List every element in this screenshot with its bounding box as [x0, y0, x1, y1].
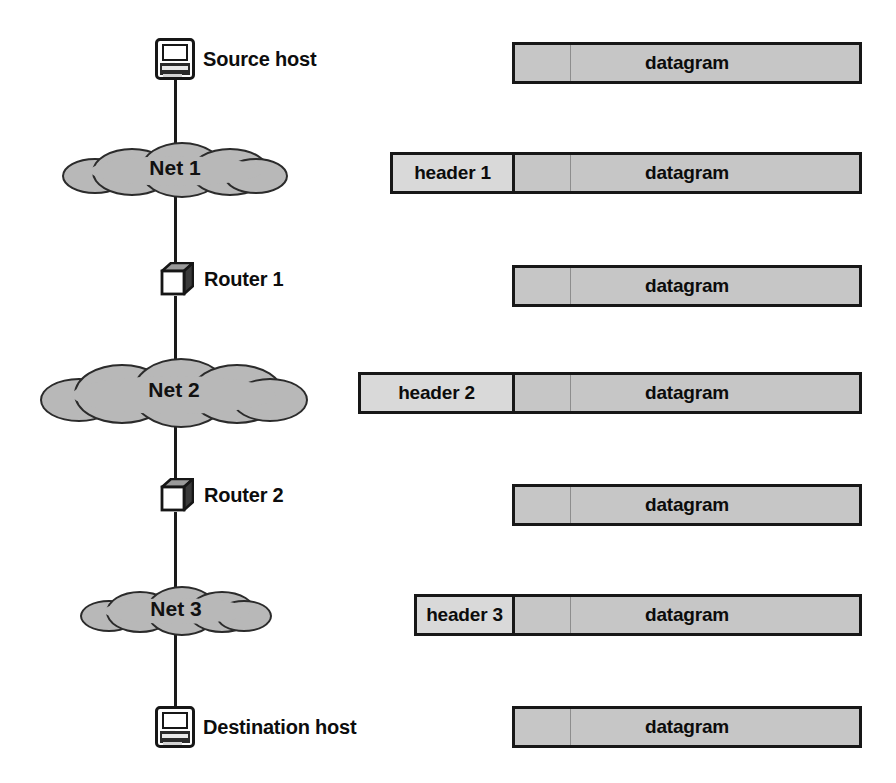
payload-label: datagram	[645, 275, 729, 297]
payload-cell: datagram	[512, 265, 862, 307]
payload-label: datagram	[645, 716, 729, 738]
payload-tick-mark	[570, 487, 571, 523]
payload-tick-mark	[570, 45, 571, 81]
payload-cell: datagram	[512, 706, 862, 748]
payload-label: datagram	[645, 52, 729, 74]
packet-row[interactable]: datagram	[512, 42, 862, 84]
header-cell: header 1	[390, 152, 515, 194]
payload-cell: datagram	[512, 594, 862, 636]
node-label-net-2: Net 2	[40, 378, 308, 402]
packet-row[interactable]: datagram	[512, 706, 862, 748]
packet-row[interactable]: header 2 datagram	[358, 372, 862, 414]
payload-tick-mark	[570, 375, 571, 411]
packet-row[interactable]: datagram	[512, 265, 862, 307]
header-label: header 3	[426, 604, 503, 626]
payload-tick-mark	[570, 155, 571, 191]
packet-row[interactable]: datagram	[512, 484, 862, 526]
packet-row[interactable]: header 1 datagram	[390, 152, 862, 194]
payload-cell: datagram	[512, 42, 862, 84]
node-label-net-3: Net 3	[80, 597, 272, 621]
payload-cell: datagram	[512, 152, 862, 194]
payload-label: datagram	[645, 382, 729, 404]
network-encapsulation-figure: Source host Net 1 Router 1	[0, 0, 896, 783]
packet-row[interactable]: header 3 datagram	[414, 594, 862, 636]
payload-tick-mark	[570, 709, 571, 745]
payload-tick-mark	[570, 268, 571, 304]
payload-label: datagram	[645, 604, 729, 626]
header-cell: header 2	[358, 372, 515, 414]
header-cell: header 3	[414, 594, 515, 636]
payload-cell: datagram	[512, 484, 862, 526]
payload-tick-mark	[570, 597, 571, 633]
payload-label: datagram	[645, 162, 729, 184]
node-label-net-1: Net 1	[62, 156, 288, 180]
header-label: header 1	[414, 162, 491, 184]
header-label: header 2	[398, 382, 475, 404]
payload-cell: datagram	[512, 372, 862, 414]
payload-label: datagram	[645, 494, 729, 516]
